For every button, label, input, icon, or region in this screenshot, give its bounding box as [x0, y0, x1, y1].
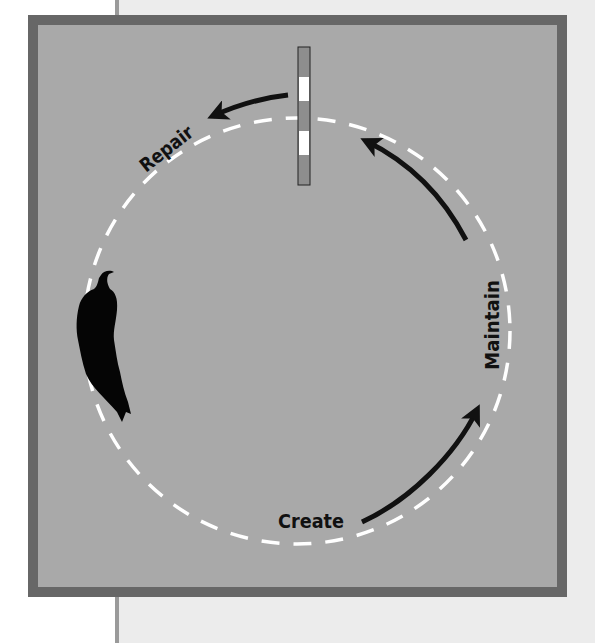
lifecycle-diagram: Create Maintain Repair: [0, 0, 595, 643]
maintain-label: Maintain: [481, 280, 503, 370]
human-silhouette-icon: [77, 271, 131, 422]
cycle-dashed-circle: [84, 118, 510, 544]
repair-arrow-icon: [213, 95, 288, 116]
striped-pole-icon: [298, 47, 310, 185]
create-label: Create: [278, 510, 344, 532]
repair-label: Repair: [135, 120, 198, 176]
